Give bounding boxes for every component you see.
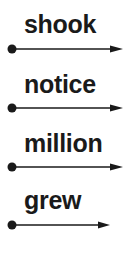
arrow-icon (0, 0, 136, 257)
